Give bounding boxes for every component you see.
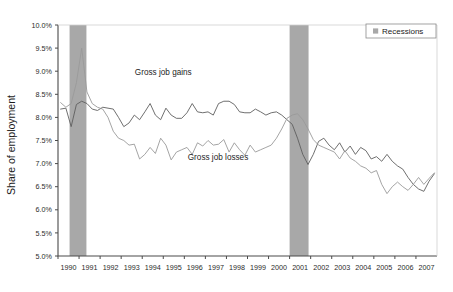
x-tick-label: 1993 (124, 263, 140, 272)
x-tick-label: 2002 (313, 263, 329, 272)
series-line (61, 48, 435, 194)
x-tick-label: 1998 (229, 263, 245, 272)
series-line (61, 101, 435, 191)
x-tick-label: 2005 (376, 263, 392, 272)
plot-border (58, 25, 437, 256)
legend-label: Recessions (382, 27, 423, 36)
x-tick-label: 2001 (292, 263, 308, 272)
series-label: Gross job gains (135, 68, 192, 77)
data-series (61, 48, 435, 194)
x-tick-label: 2003 (334, 263, 350, 272)
x-tick-label: 1995 (166, 263, 182, 272)
y-tick-label: 5.0% (36, 252, 53, 261)
x-tick-label: 1999 (250, 263, 266, 272)
y-tick-label: 5.5% (36, 229, 53, 238)
y-tick-label: 9.5% (36, 44, 53, 53)
y-tick-label: 10.0% (32, 21, 53, 30)
y-tick-label: 6.0% (36, 205, 53, 214)
axis-lines (58, 25, 437, 256)
line-chart: 10.0%9.5%9.0%8.5%8.0%7.5%7.0%6.5%6.0%5.5… (0, 0, 453, 292)
y-tick-label: 7.0% (36, 159, 53, 168)
y-tick-label: 8.5% (36, 90, 53, 99)
x-tick-label: 2004 (355, 263, 371, 272)
y-tick-label: 7.5% (36, 136, 53, 145)
x-tick-label: 1991 (82, 263, 98, 272)
x-axis-ticks: 1990199119921993199419951996199719981999… (58, 256, 434, 272)
x-tick-label: 1992 (103, 263, 119, 272)
legend: Recessions (366, 24, 436, 38)
x-tick-label: 1994 (145, 263, 161, 272)
x-tick-label: 2000 (271, 263, 287, 272)
legend-swatch (373, 28, 378, 33)
y-axis-ticks: 10.0%9.5%9.0%8.5%8.0%7.5%7.0%6.5%6.0%5.5… (32, 21, 58, 261)
x-tick-label: 2007 (418, 263, 434, 272)
series-label: Gross job losses (188, 153, 249, 162)
x-tick-label: 1990 (61, 263, 77, 272)
x-tick-label: 1997 (208, 263, 224, 272)
recession-band (70, 25, 87, 256)
recession-bands (70, 25, 309, 256)
x-tick-label: 1996 (187, 263, 203, 272)
recession-band (290, 25, 309, 256)
y-tick-label: 6.5% (36, 182, 53, 191)
plot-frame (58, 25, 437, 256)
y-axis-title: Share of employment (5, 95, 17, 195)
y-tick-label: 8.0% (36, 113, 53, 122)
chart-container: 10.0%9.5%9.0%8.5%8.0%7.5%7.0%6.5%6.0%5.5… (0, 0, 453, 292)
x-tick-label: 2006 (397, 263, 413, 272)
y-tick-label: 9.0% (36, 67, 53, 76)
